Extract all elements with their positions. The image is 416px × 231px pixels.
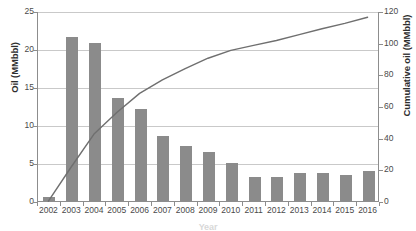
- left-tick-mark: [33, 164, 37, 165]
- left-tick-mark: [33, 50, 37, 51]
- x-tick-label: 2016: [353, 205, 383, 215]
- right-tick-label: 20: [384, 164, 410, 174]
- x-tick-mark: [333, 202, 334, 206]
- x-tick-mark: [105, 202, 106, 206]
- left-tick-label: 20: [8, 44, 34, 54]
- x-tick-mark: [379, 202, 380, 206]
- right-tick-label: 80: [384, 69, 410, 79]
- x-tick-mark: [174, 202, 175, 206]
- x-tick-mark: [37, 202, 38, 206]
- right-tick-label: 120: [384, 6, 410, 16]
- left-tick-label: 15: [8, 82, 34, 92]
- x-tick-mark: [288, 202, 289, 206]
- right-tick-label: 40: [384, 133, 410, 143]
- left-tick-label: 5: [8, 158, 34, 168]
- right-tick-label: 100: [384, 38, 410, 48]
- left-tick-mark: [33, 12, 37, 13]
- left-axis-title: Oil (MMbbl): [9, 24, 20, 112]
- right-tick-mark: [379, 12, 383, 13]
- right-tick-label: 60: [384, 101, 410, 111]
- right-tick-mark: [379, 107, 383, 108]
- right-tick-label: 0: [384, 196, 410, 206]
- left-tick-label: 25: [8, 6, 34, 16]
- x-tick-mark: [151, 202, 152, 206]
- left-tick-mark: [33, 88, 37, 89]
- x-tick-mark: [219, 202, 220, 206]
- right-tick-mark: [379, 75, 383, 76]
- x-axis-title: Year: [0, 222, 416, 231]
- cumulative-line-series: [37, 12, 379, 202]
- x-tick-mark: [83, 202, 84, 206]
- oil-production-chart: Oil (MMbbl) Cumulative oil (MMbbl) Year …: [0, 0, 416, 231]
- left-tick-mark: [33, 126, 37, 127]
- left-tick-label: 0: [8, 196, 34, 206]
- x-tick-mark: [60, 202, 61, 206]
- left-tick-label: 10: [8, 120, 34, 130]
- x-tick-mark: [128, 202, 129, 206]
- right-tick-mark: [379, 139, 383, 140]
- right-tick-mark: [379, 44, 383, 45]
- right-tick-mark: [379, 170, 383, 171]
- x-tick-mark: [242, 202, 243, 206]
- x-tick-mark: [197, 202, 198, 206]
- x-tick-mark: [356, 202, 357, 206]
- x-tick-mark: [311, 202, 312, 206]
- x-tick-mark: [265, 202, 266, 206]
